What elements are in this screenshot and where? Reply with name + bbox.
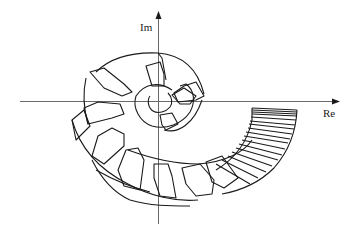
dense-templates [216, 108, 297, 194]
inner-templates [135, 62, 204, 130]
complex-plane-diagram [0, 0, 353, 235]
middle-templates [72, 53, 204, 140]
imaginary-axis-label: Im [140, 21, 152, 33]
axes [20, 11, 340, 224]
real-axis-label: Re [323, 107, 335, 119]
imaginary-axis-arrow-icon [156, 11, 162, 19]
real-axis-arrow-icon [332, 99, 340, 105]
